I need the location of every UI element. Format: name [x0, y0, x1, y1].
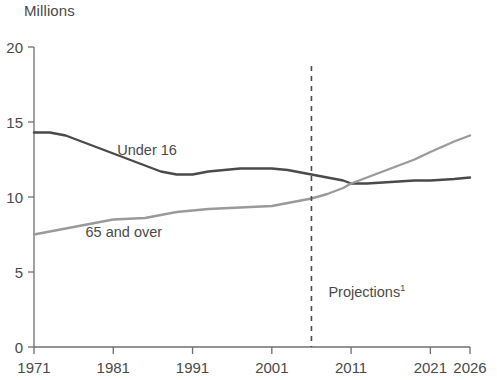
y-tick-label-15: 15 [0, 115, 23, 130]
x-tick-label-1991: 1991 [176, 360, 209, 375]
projections-label: Projections1 [328, 285, 405, 300]
x-tick-label-2026: 2026 [453, 360, 486, 375]
x-tick-label-2021: 2021 [414, 360, 447, 375]
chart-plot-area [0, 0, 497, 380]
x-tick-label-1981: 1981 [97, 360, 130, 375]
axes [28, 47, 470, 354]
series-line-1 [34, 136, 470, 235]
x-tick-label-2011: 2011 [335, 360, 367, 375]
data-series [34, 133, 470, 235]
y-tick-label-10: 10 [0, 190, 23, 205]
y-tick-label-20: 20 [0, 40, 23, 55]
projections-footnote-marker: 1 [400, 283, 405, 293]
projections-label-text: Projections [328, 284, 400, 300]
series-label-under-16: Under 16 [117, 143, 177, 158]
population-projection-chart: Millions 05101520 1971198119912001201120… [0, 0, 497, 380]
x-tick-label-2001: 2001 [255, 360, 288, 375]
series-label-65-and-over: 65 and over [86, 225, 163, 240]
x-tick-label-1971: 1971 [17, 360, 50, 375]
y-tick-label-5: 5 [0, 265, 23, 280]
series-line-0 [34, 133, 470, 184]
y-tick-label-0: 0 [0, 340, 23, 355]
